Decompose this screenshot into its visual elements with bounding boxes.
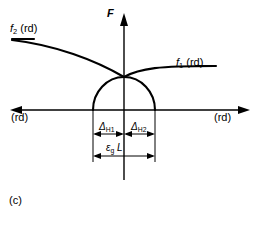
x-axis-right-arrowhead xyxy=(238,106,250,114)
curve-f2-label: f2 (rd) xyxy=(10,23,37,36)
y-axis-up-arrowhead xyxy=(120,13,128,26)
dim-delta-h2-arrow-right xyxy=(147,131,155,137)
dim-epsg-suffix: L xyxy=(117,142,123,153)
axis-x-label-right: (rd) xyxy=(214,112,231,123)
panel-label: (c) xyxy=(9,195,22,206)
dim-delta-h1-label: ΔH1 xyxy=(99,122,114,134)
dim-delta-h1-symbol: Δ xyxy=(99,121,106,132)
curve-f2 xyxy=(12,40,124,77)
dim-epsg-arrow-left xyxy=(93,153,101,159)
dim-delta-h2-subscript: H2 xyxy=(138,126,147,133)
axis-y-label: F xyxy=(107,8,114,19)
curve-f1-label-arg: (rd) xyxy=(186,56,203,68)
dim-delta-h2-symbol: Δ xyxy=(131,121,138,132)
dim-epsg-arrow-right xyxy=(147,153,155,159)
curve-f2-label-arg: (rd) xyxy=(20,22,37,34)
figure-panel-c: F (rd) (rd) f2 (rd) f1 (rd) ΔH1 ΔH2 εg L… xyxy=(0,0,260,227)
dim-epsg-label: εg L xyxy=(106,143,123,155)
dim-delta-h2-label: ΔH2 xyxy=(131,122,146,134)
axis-x-label-left: (rd) xyxy=(11,112,28,123)
curve-f1-label: f1 (rd) xyxy=(176,57,203,70)
dim-delta-h1-subscript: H1 xyxy=(106,126,115,133)
dim-delta-h1-arrow-right xyxy=(116,131,124,137)
